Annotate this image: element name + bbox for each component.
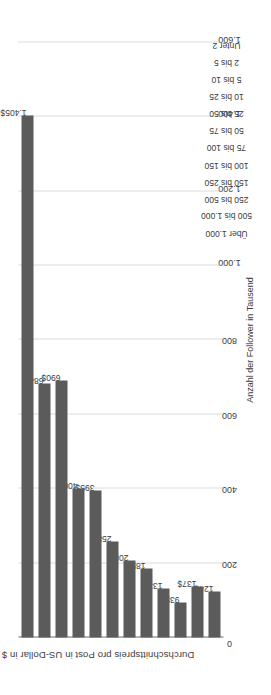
bar — [123, 560, 135, 637]
category-label: 2 bis 5 — [213, 58, 238, 68]
category-axis-labels: Unter 22 bis 55 bis 1010 bis 2525 bis 50… — [226, 42, 246, 637]
bar-chart: Durchschnittspreis pro Post in US-Dollar… — [0, 0, 271, 695]
bar-row: 684$ — [38, 361, 50, 637]
bar-row: 185$ — [140, 546, 152, 637]
category-label: 5 bis 10 — [211, 75, 241, 85]
category-label: 50 bis 75 — [209, 126, 244, 136]
category-label: 10 bis 25 — [209, 92, 244, 102]
bar-row: 400$ — [72, 466, 84, 637]
bar — [174, 602, 186, 637]
category-label: 150 bis 250 — [204, 177, 248, 187]
value-axis-title: Durchschnittspreis pro Post in US-Dollar… — [0, 650, 198, 661]
bar-row: 690$ — [55, 358, 67, 637]
bar — [140, 568, 152, 637]
category-label: 100 bis 150 — [204, 160, 248, 170]
category-label: Unter 2 — [212, 41, 240, 51]
bar-row: 208$ — [123, 538, 135, 637]
category-label: 25 bis 50 — [209, 109, 244, 119]
bar — [55, 380, 67, 637]
bar-row: 1.405$ — [21, 86, 33, 637]
bar — [208, 591, 220, 637]
bar-value-label: 1.405$ — [0, 107, 26, 117]
bar — [21, 115, 33, 637]
category-axis-title: Anzahl der Follower in Tausend — [244, 42, 254, 637]
category-label: 75 bis 100 — [206, 143, 245, 153]
plot-area: 124$137$93$133$185$208$258$395$400$690$6… — [18, 42, 223, 637]
bar-row: 124$ — [208, 569, 220, 637]
category-label: 250 bis 500 — [204, 194, 248, 204]
value-tick-label: 0 — [226, 638, 231, 648]
bar — [191, 586, 203, 637]
bar — [106, 541, 118, 637]
bar — [38, 383, 50, 637]
bar-series: 124$137$93$133$185$208$258$395$400$690$6… — [18, 42, 223, 637]
rotated-chart-wrapper: Durchschnittspreis pro Post in US-Dollar… — [0, 0, 271, 695]
bar-row: 93$ — [174, 585, 186, 637]
bar-row: 133$ — [157, 566, 169, 637]
bar-row: 258$ — [106, 519, 118, 637]
bar-row: 137$ — [191, 564, 203, 637]
bar — [157, 588, 169, 637]
bar — [72, 488, 84, 637]
bar — [89, 490, 101, 637]
category-label: Über 1.000 — [205, 228, 247, 238]
bar-row: 395$ — [89, 468, 101, 637]
